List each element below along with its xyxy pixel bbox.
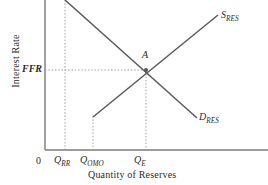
demand-curve-label: DRES <box>199 112 219 125</box>
reserves-supply-demand-chart: Interest Rate Quantity of Reserves FFR 0… <box>0 0 268 185</box>
x-tick-qe-subscript: E <box>141 160 146 168</box>
equilibrium-point-marker <box>144 68 148 72</box>
demand-label-subscript: RES <box>206 117 219 125</box>
y-axis-label: Interest Rate <box>11 21 21 101</box>
origin-tick-label: 0 <box>36 156 41 166</box>
x-tick-label-qe: QE <box>134 155 146 168</box>
supply-label-subscript: RES <box>226 15 239 23</box>
demand-curve-dres <box>65 0 197 118</box>
x-tick-label-qomo: QOMO <box>80 155 104 168</box>
x-tick-qomo-subscript: OMO <box>87 160 104 168</box>
supply-curve-label: SRES <box>221 10 239 23</box>
x-tick-qrr-subscript: RR <box>61 160 70 168</box>
x-tick-label-qrr: QRR <box>54 155 70 168</box>
supply-curve-sres <box>93 15 218 117</box>
equilibrium-point-label: A <box>142 50 148 60</box>
ffr-tick-label: FFR <box>22 64 42 74</box>
x-axis-label: Quantity of Reserves <box>88 170 176 180</box>
